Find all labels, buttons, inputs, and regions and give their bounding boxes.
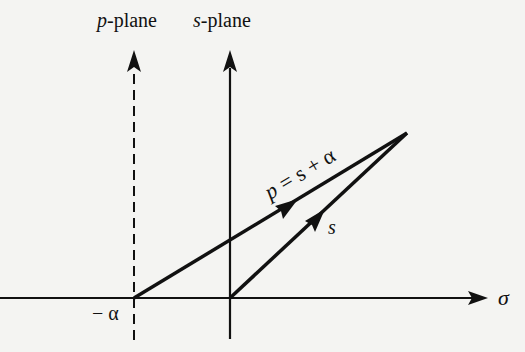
- s-plane-label: s-plane: [193, 9, 251, 32]
- vector-s-arrowhead-icon: [305, 209, 325, 232]
- vector-s-label: s: [328, 216, 336, 238]
- diagram-canvas: p-plane s-plane σ − α p= s + α s: [0, 0, 525, 352]
- minus-alpha-label: − α: [92, 302, 119, 324]
- sigma-axis: [0, 291, 488, 305]
- svg-text:p= s + α: p= s + α: [258, 142, 340, 205]
- vector-p: [134, 133, 407, 298]
- vector-p-label: p= s + α: [258, 142, 340, 205]
- p-plane-label: p-plane: [95, 9, 157, 32]
- p-axis-arrowhead-icon: [127, 50, 141, 72]
- sigma-label: σ: [498, 285, 510, 310]
